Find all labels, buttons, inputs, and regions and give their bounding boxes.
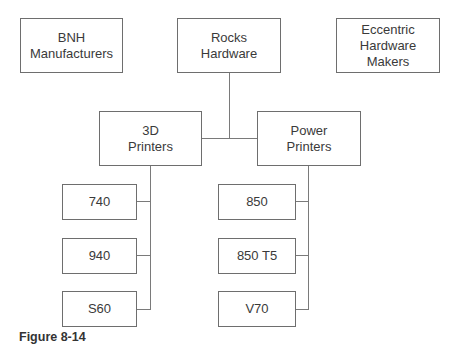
node-850-t5: 850 T5 <box>218 238 296 274</box>
node-label-line1: Rocks <box>211 30 247 46</box>
connector-categories-horizontal <box>201 138 257 139</box>
node-label-line1: Power <box>291 123 328 139</box>
node-rocks-hardware: Rocks Hardware <box>177 18 281 73</box>
figure-caption: Figure 8-14 <box>19 330 86 344</box>
connector-3d-vertical <box>150 165 151 310</box>
node-3d-printers: 3D Printers <box>99 111 202 166</box>
connector-s60 <box>136 309 151 310</box>
node-label: 850 <box>246 194 268 210</box>
node-label-line2: Hardware Makers <box>337 38 439 70</box>
node-850: 850 <box>218 184 296 220</box>
node-label: 850 T5 <box>237 248 277 264</box>
node-label-line2: Printers <box>128 139 173 155</box>
node-740: 740 <box>62 184 137 220</box>
node-label-line2: Printers <box>287 139 332 155</box>
connector-940 <box>136 255 151 256</box>
node-label-line2: Manufacturers <box>30 46 113 62</box>
connector-740 <box>136 201 151 202</box>
node-label: 940 <box>89 248 111 264</box>
node-940: 940 <box>62 238 137 274</box>
node-power-printers: Power Printers <box>257 111 361 166</box>
connector-rocks-vertical <box>229 73 230 138</box>
node-label: V70 <box>245 301 268 317</box>
connector-power-vertical <box>308 165 309 310</box>
node-s60: S60 <box>62 291 137 327</box>
connector-850t5 <box>295 255 309 256</box>
connector-v70 <box>295 309 309 310</box>
node-label-line1: 3D <box>142 123 159 139</box>
node-label: S60 <box>88 301 111 317</box>
node-bnh-manufacturers: BNH Manufacturers <box>20 18 123 73</box>
node-label: 740 <box>89 194 111 210</box>
node-eccentric-hardware-makers: Eccentric Hardware Makers <box>336 18 440 73</box>
node-v70: V70 <box>218 291 296 327</box>
connector-850 <box>295 201 309 202</box>
node-label-line2: Hardware <box>201 46 257 62</box>
node-label-line1: BNH <box>58 30 85 46</box>
node-label-line1: Eccentric <box>361 22 414 38</box>
